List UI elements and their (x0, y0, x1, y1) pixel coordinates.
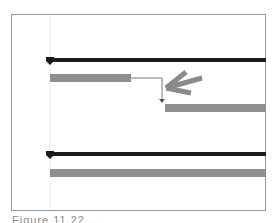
dependency-arrowhead-icon (159, 99, 165, 103)
figure-caption: Figure 11.22 ... (12, 214, 101, 223)
dependency-link[interactable] (131, 78, 165, 103)
dependency-line[interactable] (131, 78, 162, 99)
callout-arrow-icon (166, 72, 202, 93)
task-bar-2[interactable] (165, 104, 266, 112)
summary-bar-2[interactable] (46, 151, 266, 159)
summary-start-marker-icon (46, 57, 54, 65)
summary-bar-1[interactable] (46, 57, 266, 65)
summary-bar-1-body[interactable] (50, 58, 266, 62)
gantt-chart (0, 0, 274, 223)
task-bar-1[interactable] (50, 74, 131, 82)
task-bar-3[interactable] (50, 169, 266, 177)
summary-start-marker-icon (46, 151, 54, 159)
summary-bar-2-body[interactable] (50, 152, 266, 156)
